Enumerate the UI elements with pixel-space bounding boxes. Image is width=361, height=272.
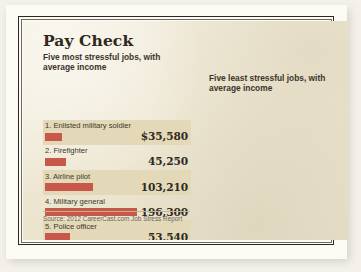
row-job-label: 1. Enlisted military soldier <box>43 121 191 130</box>
row-job-label: 5. Police officer <box>43 222 191 231</box>
row-bar-line: 103,210 <box>43 182 191 195</box>
row-bar-line: $35,580 <box>43 131 191 144</box>
row-income-bar <box>45 133 62 141</box>
row-income-bar <box>45 183 93 191</box>
source-note: Source: 2012 CareerCast.com Job Stress R… <box>43 211 190 222</box>
chart-panel: Pay Check Five most stressful jobs, with… <box>23 21 349 240</box>
page-title: Pay Check <box>43 31 133 50</box>
column-subtitle-most-stressful: Five most stressful jobs, with average i… <box>43 52 183 73</box>
row-income-value: 103,210 <box>141 181 188 193</box>
row-income-bar <box>45 233 70 240</box>
table-row: 3. Airline pilot103,210 <box>43 170 191 195</box>
row-income-value: 45,250 <box>148 155 188 167</box>
column-subtitle-least-stressful: Five least stressful jobs, with average … <box>209 73 349 94</box>
table-row: 2. Firefighter45,250 <box>43 145 191 170</box>
row-job-label: 4. Military general <box>43 197 191 206</box>
row-income-bar <box>45 158 66 166</box>
table-row: 5. Police officer53,540 <box>43 220 191 240</box>
row-bar-line: 45,250 <box>43 156 191 169</box>
photo-of-printed-infographic: Pay Check Five most stressful jobs, with… <box>0 0 361 272</box>
table-row: 1. Enlisted military soldier$35,580 <box>43 120 191 145</box>
row-income-value: 53,540 <box>148 231 188 240</box>
row-bar-line: 53,540 <box>43 232 191 240</box>
row-job-label: 2. Firefighter <box>43 146 191 155</box>
printed-page: Pay Check Five most stressful jobs, with… <box>6 5 347 259</box>
row-job-label: 3. Airline pilot <box>43 172 191 181</box>
row-income-value: $35,580 <box>141 130 188 142</box>
